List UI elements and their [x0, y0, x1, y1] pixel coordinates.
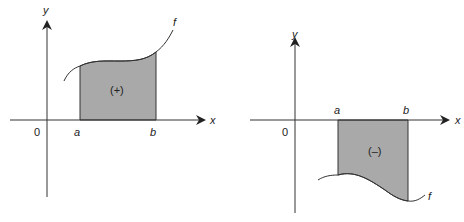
region-sign-label: (+) — [110, 84, 124, 96]
region-sign-label: (–) — [368, 145, 381, 157]
panel-negative-area: y x 0 a b f (–) — [250, 28, 461, 213]
integral-sign-diagram: y x 0 a b f (+) y x 0 a b f (–) — [0, 0, 464, 222]
panel-positive-area: y x 0 a b f (+) — [10, 4, 216, 197]
origin-label: 0 — [282, 126, 288, 138]
bound-b-label: b — [403, 104, 409, 116]
x-axis-label: x — [209, 114, 216, 126]
function-label: f — [173, 16, 177, 28]
x-axis-label: x — [454, 114, 461, 126]
bound-a-label: a — [334, 104, 340, 116]
bound-b-label: b — [150, 126, 156, 138]
y-axis-label: y — [291, 28, 299, 40]
bound-a-label: a — [74, 126, 80, 138]
function-label: f — [428, 190, 432, 202]
shaded-region-negative — [338, 120, 408, 201]
y-axis-label: y — [42, 4, 50, 16]
origin-label: 0 — [34, 126, 40, 138]
